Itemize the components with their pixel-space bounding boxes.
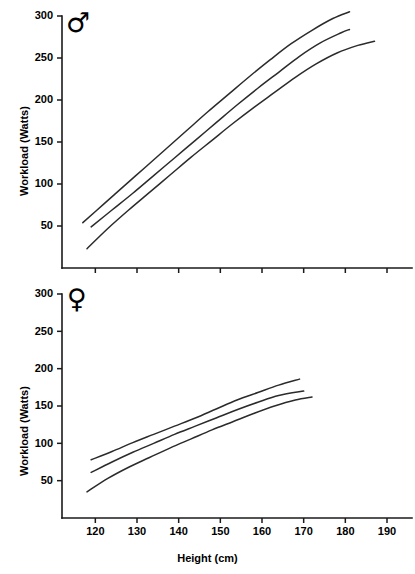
- x-axis-tick-label: 190: [378, 525, 396, 537]
- y-axis-tick-label: 150: [35, 135, 53, 147]
- y-axis-title-female: Workload (Watts): [18, 386, 30, 476]
- x-axis-title: Height (cm): [0, 552, 415, 564]
- y-axis-tick-label: 100: [35, 177, 53, 189]
- data-curve: [91, 391, 304, 472]
- chart-panel-male: 50100150200250300 Workload (Watts) ♂: [0, 0, 415, 282]
- data-curve: [83, 12, 350, 223]
- y-axis-tick-label: 50: [41, 219, 53, 231]
- data-curve: [91, 379, 299, 460]
- data-curve: [87, 397, 312, 492]
- y-axis-tick-label: 50: [41, 474, 53, 486]
- y-axis-tick-label: 300: [35, 287, 53, 299]
- x-axis-tick-label: 150: [211, 525, 229, 537]
- x-axis-tick-label: 120: [86, 525, 104, 537]
- y-axis-tick-label: 300: [35, 9, 53, 21]
- y-axis-tick-label: 200: [35, 93, 53, 105]
- x-axis-tick-label: 130: [128, 525, 146, 537]
- x-axis-tick-label: 160: [253, 525, 271, 537]
- y-axis-tick-label: 100: [35, 437, 53, 449]
- y-axis-tick-label: 150: [35, 399, 53, 411]
- x-axis-tick-label: 170: [294, 525, 312, 537]
- y-axis-tick-label: 250: [35, 325, 53, 337]
- male-sex-symbol: ♂: [66, 9, 90, 36]
- female-sex-symbol: ♀: [67, 285, 87, 312]
- x-axis-tick-label: 140: [169, 525, 187, 537]
- x-axis-tick-label: 180: [336, 525, 354, 537]
- y-axis-tick-label: 200: [35, 362, 53, 374]
- female-chart-plot: 5010015020025030012013014015016017018019…: [0, 282, 415, 574]
- y-axis-tick-label: 250: [35, 51, 53, 63]
- male-chart-plot: 50100150200250300: [0, 0, 415, 282]
- workload-height-figure: 50100150200250300 Workload (Watts) ♂ 501…: [0, 0, 415, 574]
- data-curve: [87, 41, 375, 248]
- data-curve: [91, 29, 349, 226]
- y-axis-title-male: Workload (Watts): [18, 106, 30, 196]
- chart-panel-female: 5010015020025030012013014015016017018019…: [0, 282, 415, 574]
